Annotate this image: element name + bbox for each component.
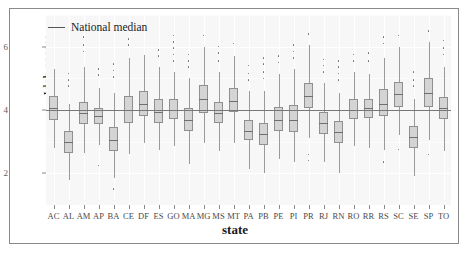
x-tick-mark-MT [234,205,235,209]
x-tick-mark-RN [339,205,340,209]
median-PR [304,96,312,97]
x-tick-mark-TO [444,205,445,209]
x-tick-mark-PE [279,205,280,209]
median-MG [199,99,207,100]
x-tick-mark-PA [249,205,250,209]
x-tick-mark-SE [414,205,415,209]
x-axis-title: state [10,222,460,238]
x-tick-mark-RR [369,205,370,209]
national-median-line [46,110,451,111]
x-tick-mark-AL [69,205,70,209]
y-tick-label-6: 6 [0,42,8,52]
x-tick-mark-BA [114,205,115,209]
x-tick-mark-GO [174,205,175,209]
x-tick-mark-ES [159,205,160,209]
figure-frame: Ideb scores state ACALAMAPBACEDFESGOMAMG… [9,8,459,244]
figure: Ideb scores state ACALAMAPBACEDFESGOMAMG… [0,0,476,261]
median-DF [139,104,147,105]
median-RS [379,104,387,105]
x-tick-mark-MA [189,205,190,209]
median-AM [79,113,87,114]
y-tick-label-4: 4 [0,105,8,115]
median-SE [409,137,417,138]
median-SC [394,94,402,95]
legend-line-icon [48,27,65,28]
x-tick-mark-MG [204,205,205,209]
x-tick-mark-PR [309,205,310,209]
median-SP [424,93,432,94]
median-MT [229,101,237,102]
median-PI [289,120,297,121]
y-tick-mark-6 [42,46,46,47]
x-tick-mark-PI [294,205,295,209]
median-PE [274,120,282,121]
median-BA [109,140,117,141]
x-tick-mark-SC [399,205,400,209]
legend-label-national-median: National median [71,21,147,33]
median-ES [154,112,162,113]
median-AP [94,116,102,117]
median-MS [214,113,222,114]
y-tick-mark-4 [42,110,46,111]
legend: National median [48,21,147,33]
y-tick-label-2: 2 [0,168,8,178]
x-tick-mark-DF [144,205,145,209]
x-tick-mark-SP [429,205,430,209]
x-tick-mark-RS [384,205,385,209]
y-tick-mark-2 [42,173,46,174]
median-MA [184,120,192,121]
median-PB [259,134,267,135]
median-RN [334,132,342,133]
median-PA [244,131,252,132]
median-RJ [319,123,327,124]
x-tick-mark-AM [84,205,85,209]
plot-panel: ACALAMAPBACEDFESGOMAMGMSMTPAPBPEPIPRRJRN… [46,15,451,205]
x-tick-mark-AP [99,205,100,209]
x-tick-mark-CE [129,205,130,209]
x-tick-mark-MS [219,205,220,209]
x-tick-mark-AC [54,205,55,209]
x-tick-mark-PB [264,205,265,209]
x-tick-mark-RO [354,205,355,209]
x-tick-mark-RJ [324,205,325,209]
median-AL [64,142,72,143]
x-tick-label-TO: TO [429,211,459,221]
